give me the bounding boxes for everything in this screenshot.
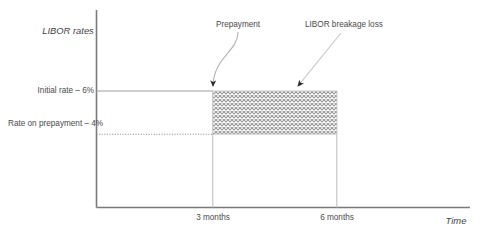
initial-rate-label: Initial rate – 6% (16, 85, 94, 96)
breakage-loss-leader-arrow (298, 33, 341, 86)
libor-breakage-loss-callout-label: LIBOR breakage loss (305, 19, 383, 30)
x-tick-label-3-months: 3 months (190, 212, 236, 223)
prepayment-leader-arrow (213, 32, 238, 86)
libor-breakage-loss-region (213, 91, 338, 134)
y-axis-title: LIBOR rates (40, 24, 96, 37)
x-axis-title: Time (434, 214, 478, 227)
x-tick-label-6-months: 6 months (314, 212, 360, 223)
diagram-canvas: LIBOR rates Time Initial rate – 6% Rate … (0, 0, 490, 233)
prepayment-callout-label: Prepayment (216, 19, 260, 30)
prepayment-rate-label: Rate on prepayment – 4% (8, 118, 94, 129)
